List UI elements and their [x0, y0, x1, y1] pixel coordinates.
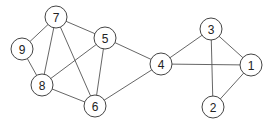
node-2: 2	[202, 96, 224, 118]
node-label: 7	[53, 11, 60, 25]
node-label: 4	[158, 58, 165, 72]
nodes-layer: 123456789	[11, 6, 262, 118]
node-9: 9	[11, 38, 33, 60]
node-label: 6	[92, 100, 99, 114]
edge-3-2	[211, 29, 213, 107]
node-label: 9	[19, 43, 26, 57]
edge-6-4	[95, 64, 161, 106]
node-5: 5	[94, 27, 116, 49]
node-label: 2	[210, 101, 217, 115]
edge-8-5	[42, 38, 105, 85]
node-1: 1	[240, 54, 262, 76]
edge-4-1	[161, 64, 251, 65]
node-label: 3	[208, 23, 215, 37]
node-8: 8	[31, 74, 53, 96]
node-3: 3	[200, 18, 222, 40]
node-label: 8	[39, 79, 46, 93]
node-6: 6	[84, 95, 106, 117]
node-label: 1	[248, 59, 255, 73]
node-label: 5	[102, 32, 109, 46]
node-7: 7	[45, 6, 67, 28]
graph-diagram: 123456789	[0, 0, 272, 129]
node-4: 4	[150, 53, 172, 75]
